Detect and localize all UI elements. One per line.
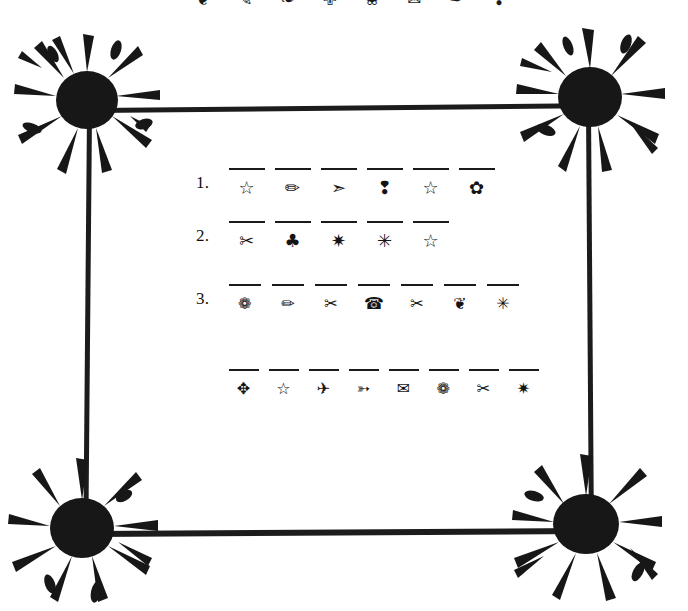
answer-slot[interactable]: ✷ (506, 369, 541, 400)
answer-slot[interactable]: ☆ (410, 168, 451, 199)
answer-slot[interactable]: ➳ (346, 369, 381, 400)
scissors-icon: ✂ (410, 293, 423, 315)
write-on-blank-line[interactable] (367, 168, 403, 170)
write-on-blank-line[interactable] (229, 369, 259, 371)
heart-leaf-icon: ❦ (453, 293, 466, 315)
answer-slot[interactable]: ✿ (456, 168, 497, 199)
four-arrows-icon: ✥ (237, 378, 250, 400)
write-on-blank-line[interactable] (321, 168, 357, 170)
answer-slot[interactable]: ✂ (398, 284, 436, 315)
row-number: 1. (196, 168, 226, 191)
asterisk-icon: ✳ (496, 293, 509, 315)
asterisk-icon: ✳ (377, 230, 392, 252)
answer-slot[interactable]: ✥ (226, 369, 261, 400)
answer-slot[interactable]: ➣ (318, 168, 359, 199)
answer-slot[interactable]: ✂ (312, 284, 350, 315)
pencil-icon: ✏ (285, 177, 300, 199)
write-on-blank-line[interactable] (401, 284, 433, 286)
worksheet-row: 2. ✂ ♣ ✷ ✳ ☆ (196, 221, 526, 252)
row-slots: ☆ ✏ ➣ ❢ ☆ ✿ (226, 168, 526, 199)
answer-slot[interactable]: ❁ (426, 369, 461, 400)
star-outline-icon: ☆ (422, 230, 438, 252)
scissors-icon: ✂ (239, 230, 254, 252)
frame-top-rule (95, 103, 583, 113)
scissors-icon: ✂ (477, 378, 490, 400)
write-on-blank-line[interactable] (413, 221, 449, 223)
answer-slot[interactable]: ☎ (355, 284, 393, 315)
write-on-blank-line[interactable] (413, 168, 449, 170)
write-on-blank-line[interactable] (321, 221, 357, 223)
answer-slot[interactable]: ❢ (364, 168, 405, 199)
top-strip-glyph: ❣ (492, 0, 506, 8)
flower-rosette-icon: ❁ (437, 378, 450, 400)
airplane-icon: ✈ (317, 378, 330, 400)
answer-slot[interactable]: ☆ (266, 369, 301, 400)
answer-slot[interactable]: ☆ (410, 221, 451, 252)
star-outline-icon: ☆ (238, 177, 254, 199)
top-strip-glyph: ❦ (196, 0, 210, 8)
row-slots: ❁ ✏ ✂ ☎ ✂ ❦ ✳ (226, 284, 526, 315)
star-outline-icon: ☆ (422, 177, 438, 199)
answer-slot[interactable]: ✂ (226, 221, 267, 252)
ink-splat-icon (12, 28, 162, 178)
write-on-blank-line[interactable] (358, 284, 390, 286)
frame-left-rule (83, 113, 92, 533)
write-on-blank-line[interactable] (429, 369, 459, 371)
row-number: 2. (196, 221, 226, 244)
write-on-blank-line[interactable] (269, 369, 299, 371)
write-on-blank-line[interactable] (469, 369, 499, 371)
answer-slot[interactable]: ✂ (466, 369, 501, 400)
worksheet-row: ✥ ☆ ✈ ➳ ✉ ❁ ✂ (196, 369, 526, 400)
write-on-blank-line[interactable] (389, 369, 419, 371)
write-on-blank-line[interactable] (275, 221, 311, 223)
answer-slot[interactable]: ✳ (364, 221, 405, 252)
write-on-blank-line[interactable] (367, 221, 403, 223)
write-on-blank-line[interactable] (349, 369, 379, 371)
club-icon: ♣ (284, 230, 300, 252)
write-on-blank-line[interactable] (229, 284, 261, 286)
top-cropped-symbol-strip: ❦ ✎ ❧ ✙ ❀ ✉ ✒ ❣ (196, 0, 506, 8)
answer-slot[interactable]: ✈ (306, 369, 341, 400)
top-strip-glyph: ✉ (407, 0, 421, 8)
row-slots: ✂ ♣ ✷ ✳ ☆ (226, 221, 526, 252)
flower-rosette-icon: ❁ (238, 293, 251, 315)
frame-bottom-rule (93, 528, 585, 537)
answer-slot[interactable]: ✏ (272, 168, 313, 199)
answer-slot[interactable]: ☆ (226, 168, 267, 199)
write-on-blank-line[interactable] (444, 284, 476, 286)
write-on-blank-line[interactable] (275, 168, 311, 170)
top-strip-glyph: ✎ (238, 0, 252, 8)
write-on-blank-line[interactable] (315, 284, 347, 286)
worksheet-row: 1. ☆ ✏ ➣ ❢ ☆ ✿ (196, 168, 526, 199)
top-strip-glyph: ✒ (450, 0, 464, 8)
worksheet-body: 1. ☆ ✏ ➣ ❢ ☆ ✿ (196, 168, 526, 408)
answer-slot[interactable]: ♣ (272, 221, 313, 252)
exclamation-icon: ❢ (377, 177, 392, 199)
write-on-blank-line[interactable] (459, 168, 495, 170)
write-on-blank-line[interactable] (309, 369, 339, 371)
star-outline-icon: ☆ (276, 378, 290, 400)
write-on-blank-line[interactable] (509, 369, 539, 371)
write-on-blank-line[interactable] (229, 221, 265, 223)
starburst-icon: ✷ (331, 230, 346, 252)
starburst-icon: ✷ (517, 378, 530, 400)
scissors-icon: ✂ (324, 293, 337, 315)
ink-splat-icon (516, 24, 666, 174)
answer-slot[interactable]: ✉ (386, 369, 421, 400)
top-strip-glyph: ❀ (365, 0, 379, 8)
answer-slot[interactable]: ✳ (484, 284, 522, 315)
ink-splat-icon (8, 458, 158, 608)
write-on-blank-line[interactable] (487, 284, 519, 286)
answer-slot[interactable]: ✏ (269, 284, 307, 315)
write-on-blank-line[interactable] (272, 284, 304, 286)
frame-right-rule (586, 110, 594, 532)
worksheet-row: 3. ❁ ✏ ✂ ☎ ✂ ❦ (196, 284, 526, 315)
answer-slot[interactable]: ❁ (226, 284, 264, 315)
answer-slot[interactable]: ❦ (441, 284, 479, 315)
row-number: 3. (196, 284, 226, 307)
answer-slot[interactable]: ✷ (318, 221, 359, 252)
top-strip-glyph: ❧ (281, 0, 295, 8)
envelope-icon: ✉ (397, 378, 410, 400)
write-on-blank-line[interactable] (229, 168, 265, 170)
arrow-dot-icon: ➳ (357, 378, 370, 400)
